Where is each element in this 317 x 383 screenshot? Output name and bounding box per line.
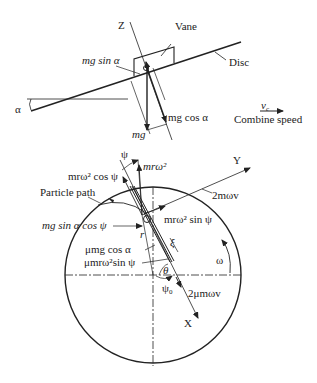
seed-metering-force-diagram: Disc α Z Vane mg sin α mg mg cos α vc C: [0, 0, 317, 383]
mr-omega2-label: mrω²: [143, 160, 167, 172]
theta-label: θ: [163, 264, 169, 276]
particle-path-label: Particle path: [40, 186, 96, 198]
mu-mr-omega2-sin-psi-label: μmrω²sin ψ: [84, 256, 135, 268]
mu-mr-omega2-sin-psi-leader: [142, 259, 168, 263]
alpha-angle-arc: [30, 99, 32, 110]
two-mu-m-omega-v-label: 2μmωv: [188, 287, 221, 299]
mg-label: mg: [132, 128, 146, 140]
y-axis-label: Y: [233, 154, 241, 166]
disc-line: [31, 42, 241, 111]
combine-speed-label: Combine speed: [234, 113, 303, 125]
vane-label: Vane: [175, 20, 197, 32]
mg-sin-alpha-label: mg sin α: [82, 54, 120, 66]
mu-mg-cos-alpha-label: μmg cos α: [85, 243, 131, 255]
psi0-arc: [156, 276, 172, 279]
normal-guide-line-2: [153, 68, 165, 100]
alpha-label: α: [15, 103, 21, 115]
top-view-section: X ψ mrω² mrω² cos ψ Y 2mωv mrω² sin ψ Pa…: [40, 148, 250, 366]
mu-mg-cos-alpha-leader: [145, 245, 155, 250]
xi-label: ξ: [170, 236, 175, 249]
side-view-section: Disc α Z Vane mg sin α mg mg cos α vc C: [15, 19, 303, 140]
mg-cos-alpha-label: mg cos α: [168, 111, 208, 123]
omega-label: ω: [216, 254, 223, 266]
psi0-label: ψ0: [162, 282, 173, 296]
mg-sin-alpha-cos-psi-label: mg sin α cos ψ: [42, 219, 107, 231]
mg-sin-alpha-leader: [116, 66, 140, 74]
omega-rotation-arrow: [222, 240, 230, 273]
two-m-omega-v-label: 2mωv: [212, 189, 239, 201]
component-closing-line: [147, 124, 167, 130]
psi-label: ψ: [121, 148, 128, 160]
r-label: r: [140, 228, 145, 240]
mr-omega2-arrow: [139, 165, 142, 215]
mr-omega2-sin-psi-label: mrω² sin ψ: [164, 213, 212, 225]
disc-label: Disc: [229, 56, 249, 68]
mr-omega2-cos-psi-label: mrω² cos ψ: [68, 170, 118, 182]
x-axis-label: X: [184, 317, 192, 329]
z-axis-label: Z: [118, 19, 125, 31]
particle-path-leader: [88, 197, 102, 204]
x-axis-line: [120, 160, 198, 318]
two-m-omega-v-leader: [202, 189, 212, 193]
disc-leader: [215, 52, 226, 60]
